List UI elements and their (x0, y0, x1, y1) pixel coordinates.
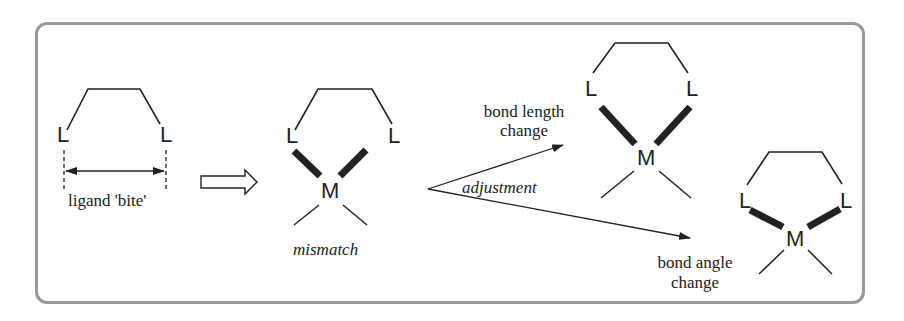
adjustment-label: adjustment (462, 178, 537, 197)
metal-atom: M (321, 180, 339, 202)
ligand-atom-right: L (840, 190, 852, 212)
mismatch-caption: mismatch (293, 240, 358, 259)
bond-angle-complex (747, 152, 842, 274)
bond-angle-caption-line2: change (643, 273, 747, 292)
diagram-drawing (0, 0, 904, 321)
metal-atom: M (637, 147, 655, 169)
bond-length-complex (593, 43, 691, 198)
bond-length-caption-line1: bond length (472, 102, 576, 121)
free-ligand-backbone (64, 89, 166, 190)
ligand-atom-right: L (388, 125, 400, 147)
ligand-atom-left: L (57, 124, 69, 146)
metal-atom: M (786, 228, 804, 250)
bond-angle-caption-line1: bond angle (643, 253, 747, 272)
ligand-atom-left: L (286, 125, 298, 147)
hollow-right-arrow (201, 170, 257, 194)
ligand-atom-left: L (585, 78, 597, 100)
ligand-atom-left: L (739, 190, 751, 212)
mismatch-complex (294, 89, 392, 225)
ligand-atom-right: L (686, 78, 698, 100)
bond-length-caption-line2: change (472, 121, 576, 140)
ligand-atom-right: L (160, 124, 172, 146)
ligand-bite-caption: ligand 'bite' (68, 191, 146, 210)
